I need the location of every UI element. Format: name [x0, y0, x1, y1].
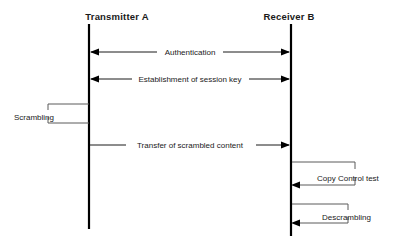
loop-label-descrambling: Descrambling: [322, 213, 371, 222]
message-label-authentication: Authentication: [165, 48, 216, 57]
message-session-key: Establishment of session key: [90, 72, 290, 84]
loop-top-copy-control-test: [292, 162, 355, 169]
message-label-session-key: Establishment of session key: [138, 75, 241, 84]
loop-label-scrambling: Scrambling: [14, 113, 54, 122]
diagram-canvas: Transmitter A Receiver B Authentication …: [0, 0, 406, 246]
loop-label-copy-control-test: Copy Control test: [317, 174, 380, 183]
arrowhead-right-authentication: [281, 48, 290, 55]
self-loop-copy-control-test: Copy Control test: [291, 162, 380, 189]
loop-top-scrambling: [48, 104, 89, 110]
arrowhead-copy-control-test: [291, 181, 300, 188]
actor-label-receiver: Receiver B: [263, 11, 314, 22]
message-scrambled-content: Transfer of scrambled content: [90, 138, 290, 150]
arrowhead-right-scrambled-content: [281, 141, 290, 148]
message-authentication: Authentication: [90, 45, 290, 57]
arrowhead-left-authentication: [90, 48, 99, 55]
arrowhead-descrambling: [291, 219, 300, 226]
sequence-diagram: Transmitter A Receiver B Authentication …: [0, 0, 406, 246]
actor-label-transmitter: Transmitter A: [85, 11, 149, 22]
self-loop-scrambling: Scrambling: [14, 104, 89, 123]
self-loop-descrambling: Descrambling: [291, 204, 371, 227]
arrowhead-right-session-key: [281, 75, 290, 82]
message-label-scrambled-content: Transfer of scrambled content: [137, 141, 244, 150]
arrowhead-left-session-key: [90, 75, 99, 82]
loop-top-descrambling: [292, 204, 348, 210]
loop-bottom-scrambling: [48, 117, 89, 123]
